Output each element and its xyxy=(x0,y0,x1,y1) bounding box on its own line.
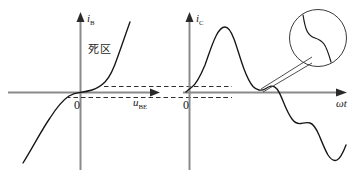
left-y-axis-arrow xyxy=(77,12,85,22)
left-x-axis-label-subscript: BE xyxy=(139,103,148,110)
crossover-distortion-figure: iB uBE 0 死区 iC ωt 0 xyxy=(0,0,363,178)
figure-canvas xyxy=(0,0,363,178)
output-current-waveform xyxy=(186,27,346,160)
right-y-axis-label-subscript: C xyxy=(199,19,204,26)
left-plot-group xyxy=(8,12,160,170)
right-x-axis-arrow xyxy=(336,89,347,97)
left-origin-label: 0 xyxy=(74,99,80,111)
magnifier-circle xyxy=(290,10,347,67)
dead-zone-annotation: 死区 xyxy=(88,44,111,55)
callout-leader-line-upper xyxy=(261,57,312,89)
left-y-axis-label: iB xyxy=(87,13,95,27)
left-y-axis xyxy=(77,12,85,170)
left-y-axis-label-subscript: B xyxy=(90,19,95,26)
left-x-axis-arrow xyxy=(150,89,160,97)
magnified-crossover-notch xyxy=(303,15,331,62)
right-x-axis-label: ωt xyxy=(336,98,347,109)
right-y-axis-label: iC xyxy=(196,13,204,27)
right-origin-label: 0 xyxy=(183,99,189,111)
right-y-axis-arrow xyxy=(186,12,194,22)
magnifier-callout-group xyxy=(261,10,347,93)
left-x-axis-label: uBE xyxy=(133,97,147,111)
callout-leader-line-lower xyxy=(263,63,312,92)
